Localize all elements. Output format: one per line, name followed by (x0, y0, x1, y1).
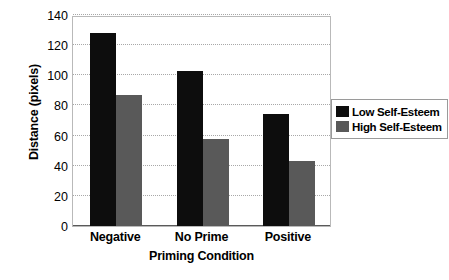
y-tick-label-40: 40 (34, 160, 68, 173)
bar-no-prime-low-self-esteem (177, 71, 203, 226)
legend-label: High Self-Esteem (352, 121, 442, 133)
y-tick-label-140: 140 (34, 10, 68, 23)
y-tick-label-80: 80 (34, 100, 68, 113)
x-axis-title: Priming Condition (72, 249, 331, 263)
legend-swatch-high-self-esteem (336, 121, 349, 132)
x-tick-label-no-prime: No Prime (175, 230, 228, 244)
legend-label: Low Self-Esteem (352, 106, 440, 118)
chart-legend: Low Self-EsteemHigh Self-Esteem (331, 99, 448, 139)
y-tick-label-20: 20 (34, 191, 68, 204)
bar-negative-high-self-esteem (116, 95, 142, 226)
bar-positive-high-self-esteem (289, 161, 315, 226)
bar-positive-low-self-esteem (263, 114, 289, 226)
y-tick-label-0: 0 (34, 221, 68, 234)
plot-area (72, 16, 331, 227)
y-tick-label-60: 60 (34, 130, 68, 143)
bar-negative-low-self-esteem (90, 33, 116, 226)
legend-item: Low Self-Esteem (336, 104, 442, 119)
legend-swatch-low-self-esteem (336, 106, 349, 117)
bars-layer (73, 17, 330, 226)
x-tick-label-positive: Positive (265, 230, 311, 244)
legend-item: High Self-Esteem (336, 119, 442, 134)
x-tick-label-negative: Negative (90, 230, 141, 244)
bar-no-prime-high-self-esteem (203, 139, 229, 226)
gridline-140 (73, 14, 330, 15)
y-tick-label-100: 100 (34, 70, 68, 83)
x-axis-tick-labels: NegativeNo PrimePositive (72, 230, 331, 248)
y-tick-label-120: 120 (34, 40, 68, 53)
y-axis-tick-labels: 020406080100120140 (34, 16, 68, 227)
bar-chart: Distance (pixels) 020406080100120140 Neg… (0, 0, 449, 280)
